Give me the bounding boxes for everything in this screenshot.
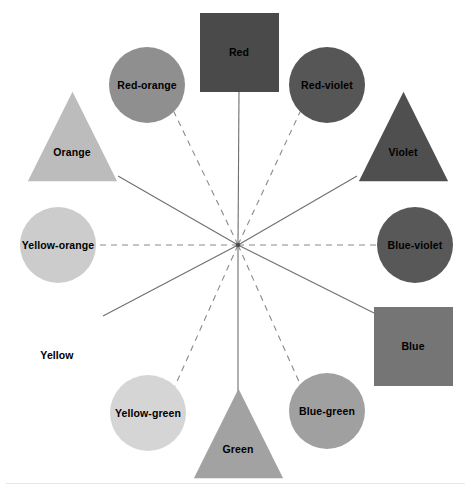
spoke-line-red-orange [174, 112, 238, 245]
color-label-red: Red [229, 47, 249, 58]
color-node-yellow-green[interactable]: Yellow-green [110, 375, 186, 451]
swatch-triangle-green [192, 387, 285, 480]
spoke-line-red-violet [238, 112, 300, 245]
color-label-blue-green: Blue-green [299, 406, 355, 417]
color-label-red-violet: Red-violet [301, 80, 353, 91]
swatch-triangle-violet [357, 90, 450, 183]
color-node-blue[interactable]: Blue [374, 307, 453, 386]
color-label-violet: Violet [389, 147, 418, 158]
spoke-line-red [238, 92, 239, 245]
color-node-red-orange[interactable]: Red-orange [109, 47, 185, 123]
color-label-red-orange: Red-orange [117, 80, 176, 91]
color-label-yellow: Yellow [40, 350, 73, 361]
swatch-triangle-orange [26, 90, 119, 183]
color-wheel-diagram: RedRed-orangeRed-violetOrangeVioletYello… [0, 0, 473, 490]
color-label-blue-violet: Blue-violet [388, 240, 443, 251]
color-label-orange: Orange [53, 147, 90, 158]
color-node-yellow-orange[interactable]: Yellow-orange [20, 207, 96, 283]
spoke-line-orange [118, 176, 238, 245]
color-node-yellow[interactable]: Yellow [11, 293, 104, 386]
color-node-orange[interactable]: Orange [26, 90, 119, 183]
spoke-line-yellow [103, 245, 238, 316]
color-node-green[interactable]: Green [192, 387, 285, 480]
spoke-line-yellow-green [175, 245, 238, 386]
center-hub-point [236, 243, 240, 247]
color-node-violet[interactable]: Violet [357, 90, 450, 183]
spoke-line-violet [238, 176, 357, 245]
color-label-yellow-orange: Yellow-orange [22, 240, 94, 251]
spoke-line-blue [238, 245, 374, 313]
spoke-line-blue-green [238, 245, 300, 384]
color-label-green: Green [223, 444, 254, 455]
swatch-triangle-yellow [11, 293, 104, 386]
color-node-blue-green[interactable]: Blue-green [289, 373, 365, 449]
color-node-red[interactable]: Red [200, 13, 279, 92]
color-node-blue-violet[interactable]: Blue-violet [377, 207, 453, 283]
color-label-blue: Blue [401, 341, 424, 352]
color-label-yellow-green: Yellow-green [115, 408, 181, 419]
color-node-red-violet[interactable]: Red-violet [289, 47, 365, 123]
scan-artifact-line [6, 483, 465, 484]
